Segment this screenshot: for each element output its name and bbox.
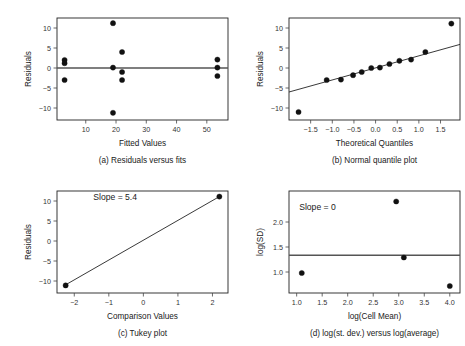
chart-d-data-point [401, 255, 406, 260]
chart-b-ytick-label: 0 [279, 64, 283, 73]
chart-d-caption: (d) log(st. dev.) versus log(average) [310, 329, 439, 338]
chart-b-ytick-label: 10 [275, 24, 283, 33]
chart-d-xtick-label: 1.5 [317, 298, 327, 307]
chart-b-xtick-label: 0.0 [371, 125, 381, 134]
chart-b-data-point [397, 58, 402, 63]
chart-c-ytick-label: 10 [43, 197, 51, 206]
chart-d-ytick-label: 1.0 [273, 268, 283, 277]
chart-d-xlabel: log(Cell Mean) [348, 312, 402, 321]
chart-b-xtick-label: −1.5 [304, 125, 318, 134]
chart-c-ytick-label: −10 [39, 277, 51, 286]
chart-c-fit-line [64, 196, 220, 286]
chart-b-data-point [324, 77, 329, 82]
chart-d-ytick-label: 2.0 [273, 218, 283, 227]
chart-a-xtick-label: 10 [82, 125, 90, 134]
chart-b-svg: −1.5−1.0−0.50.00.51.01.5−10−50510Theoret… [233, 0, 465, 173]
chart-d-ytick-label: 1.5 [273, 243, 283, 252]
chart-b-xtick-label: 1.5 [436, 125, 446, 134]
chart-d-xtick-label: 3.5 [419, 298, 429, 307]
chart-b-xtick-label: −1.0 [325, 125, 339, 134]
chart-a-ytick-label: 5 [47, 44, 51, 53]
chart-a-data-point [119, 69, 124, 74]
chart-a-data-point [215, 57, 220, 62]
chart-c-ytick-label: −5 [43, 257, 51, 266]
chart-d-svg: 1.01.52.02.53.03.54.01.01.52.0Slope = 0l… [233, 173, 465, 346]
chart-a-data-point [119, 49, 124, 54]
chart-c-xtick-label: −2 [70, 298, 78, 307]
chart-b-ytick-label: −5 [275, 84, 283, 93]
chart-b-fit-line [289, 44, 460, 92]
chart-d-xtick-label: 1.0 [292, 298, 302, 307]
chart-b-data-point [408, 57, 413, 62]
figure-grid: 1020304050−10−50510Fitted ValuesResidual… [0, 0, 465, 346]
panel-residuals-versus-fits: 1020304050−10−50510Fitted ValuesResidual… [0, 0, 232, 173]
chart-d-data-point [447, 283, 452, 288]
chart-b-data-point [338, 77, 343, 82]
chart-c-xtick-label: 2 [210, 298, 214, 307]
chart-a-data-point [119, 77, 124, 82]
chart-a-data-point [110, 21, 115, 26]
chart-a-data-point [215, 65, 220, 70]
chart-a-xtick-label: 40 [173, 125, 181, 134]
chart-c-xtick-label: 1 [176, 298, 180, 307]
chart-c-slope-annotation: Slope = 5.4 [93, 192, 137, 202]
chart-c-ytick-label: 0 [47, 237, 51, 246]
chart-c-xlabel: Comparison Values [107, 312, 178, 321]
chart-a-ytick-label: −10 [39, 104, 51, 113]
panel-tukey-plot: −2−1012−10−50510Slope = 5.4Comparison Va… [0, 173, 232, 346]
chart-b-data-point [377, 65, 382, 70]
chart-b-data-point [449, 21, 454, 26]
chart-c-xtick-label: −1 [105, 298, 113, 307]
chart-a-data-point [110, 110, 115, 115]
chart-b-ytick-label: −10 [271, 104, 283, 113]
chart-a-xlabel: Fitted Values [119, 139, 166, 148]
chart-a-ylabel: Residuals [24, 51, 33, 87]
chart-d-data-point [299, 270, 304, 275]
chart-a-svg: 1020304050−10−50510Fitted ValuesResidual… [0, 0, 232, 173]
chart-a-data-point [62, 61, 67, 66]
chart-b-xtick-label: −0.5 [347, 125, 361, 134]
chart-b-ytick-label: 5 [279, 44, 283, 53]
chart-c-ylabel: Residuals [24, 224, 33, 260]
chart-c-data-point [63, 283, 68, 288]
chart-a-plot-area: 1020304050−10−50510Fitted ValuesResidual… [24, 18, 228, 165]
chart-b-xlabel: Theoretical Quantiles [336, 139, 413, 148]
chart-b-data-point [296, 109, 301, 114]
chart-b-data-point [350, 73, 355, 78]
chart-a-frame [57, 18, 228, 120]
chart-c-caption: (c) Tukey plot [118, 329, 168, 338]
chart-b-caption: (b) Normal quantile plot [332, 156, 418, 165]
chart-a-ytick-label: 0 [47, 64, 51, 73]
chart-c-plot-area: −2−1012−10−50510Slope = 5.4Comparison Va… [24, 191, 228, 338]
chart-b-ylabel: Residuals [256, 51, 265, 87]
panel-logsd-versus-logmean: 1.01.52.02.53.03.54.01.01.52.0Slope = 0l… [233, 173, 465, 346]
chart-c-ytick-label: 5 [47, 217, 51, 226]
chart-b-xtick-label: 0.5 [392, 125, 402, 134]
chart-c-data-point [217, 194, 222, 199]
chart-a-data-point [62, 77, 67, 82]
chart-b-data-point [369, 65, 374, 70]
chart-d-xtick-label: 3.0 [394, 298, 404, 307]
chart-d-xtick-label: 2.5 [368, 298, 378, 307]
chart-a-caption: (a) Residuals versus fits [99, 156, 186, 165]
chart-d-xtick-label: 4.0 [445, 298, 455, 307]
chart-a-ytick-label: 10 [43, 24, 51, 33]
chart-a-xtick-label: 50 [203, 125, 211, 134]
chart-c-xtick-label: 0 [141, 298, 145, 307]
chart-d-data-point [394, 199, 399, 204]
chart-c-svg: −2−1012−10−50510Slope = 5.4Comparison Va… [0, 173, 232, 346]
chart-b-plot-area: −1.5−1.0−0.50.00.51.01.5−10−50510Theoret… [256, 18, 460, 165]
chart-a-data-point [110, 65, 115, 70]
chart-a-ytick-label: −5 [43, 84, 51, 93]
chart-b-data-point [423, 49, 428, 54]
chart-a-data-point [215, 73, 220, 78]
chart-d-ylabel: log(SD) [256, 228, 265, 256]
chart-a-xtick-label: 30 [142, 125, 150, 134]
chart-d-plot-area: 1.01.52.02.53.03.54.01.01.52.0Slope = 0l… [256, 191, 460, 338]
chart-b-frame [289, 18, 460, 120]
panel-normal-quantile-plot: −1.5−1.0−0.50.00.51.01.5−10−50510Theoret… [233, 0, 465, 173]
chart-d-slope-annotation: Slope = 0 [299, 202, 336, 212]
chart-a-xtick-label: 20 [112, 125, 120, 134]
chart-b-data-point [359, 69, 364, 74]
chart-b-data-point [387, 61, 392, 66]
